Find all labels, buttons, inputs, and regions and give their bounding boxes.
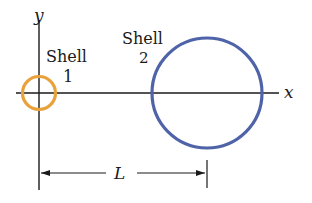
shells-diagram: y x Shell 1 Shell 2 L: [0, 0, 312, 203]
arrowhead-right-icon: [196, 170, 205, 176]
arrowhead-left-icon: [41, 170, 50, 176]
shell-1-label: Shell: [46, 47, 87, 66]
x-axis-label: x: [284, 82, 294, 102]
shell-2-label: Shell: [122, 29, 163, 48]
shell-2-number: 2: [139, 49, 149, 67]
dimension-label: L: [113, 163, 125, 183]
y-axis-label: y: [33, 5, 44, 25]
shell-1-number: 1: [63, 67, 73, 86]
